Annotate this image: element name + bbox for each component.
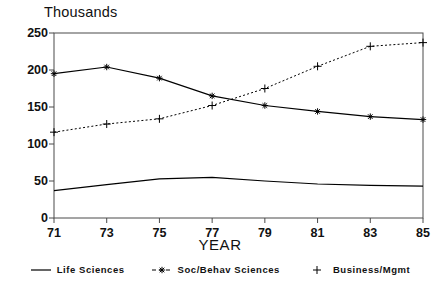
legend-item[interactable]: Soc/Behav Sciences	[151, 264, 280, 275]
chart-legend: Life SciencesSoc/Behav SciencesBusiness/…	[0, 264, 440, 275]
x-axis-title: YEAR	[0, 236, 440, 253]
star-marker-icon	[151, 265, 173, 275]
plus-marker-icon	[306, 265, 328, 275]
legend-item[interactable]: Business/Mgmt	[306, 264, 410, 275]
legend-label: Business/Mgmt	[333, 264, 410, 275]
line-marker-icon	[30, 265, 52, 275]
legend-label: Life Sciences	[57, 264, 125, 275]
legend-label: Soc/Behav Sciences	[178, 264, 280, 275]
legend-item[interactable]: Life Sciences	[30, 264, 125, 275]
line-chart: Thousands 250200150100500 71737577798183…	[0, 0, 440, 292]
